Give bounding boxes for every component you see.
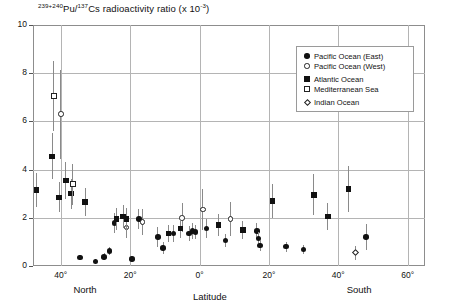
hemisphere-label-north: North xyxy=(65,284,105,295)
x-tick-label: 0° xyxy=(185,270,215,280)
marker-filled-square xyxy=(56,195,62,201)
x-tick-label: 60° xyxy=(393,270,423,280)
y-tick-label: 4 xyxy=(7,164,27,174)
marker-open-square xyxy=(51,93,57,99)
marker-filled-square xyxy=(178,226,184,232)
legend-item-atlantic-ocean[interactable]: Atlantic Ocean xyxy=(302,74,409,84)
legend-item-pacific-ocean-east[interactable]: Pacific Ocean (East) xyxy=(302,51,409,61)
marker-filled-square xyxy=(34,187,40,193)
marker-filled-circle xyxy=(304,53,310,59)
marker-filled-square xyxy=(240,227,246,233)
y-tick-mark xyxy=(29,218,33,219)
y-tick-mark xyxy=(29,170,33,171)
title-pu: Pu/ xyxy=(63,3,78,14)
legend-marker-filled-circle-icon xyxy=(302,51,314,61)
marker-open-circle xyxy=(304,63,310,69)
y-gridline xyxy=(33,121,425,122)
x-tick-label: 20° xyxy=(115,270,145,280)
legend: Pacific Ocean (East)Pacific Ocean (West)… xyxy=(296,46,414,112)
x-gridline xyxy=(269,25,270,266)
marker-filled-circle xyxy=(107,248,113,254)
hemisphere-label-south: South xyxy=(339,284,379,295)
chart-container: 239+240Pu/137Cs radioactivity ratio (x 1… xyxy=(0,0,461,302)
marker-open-square xyxy=(70,181,76,187)
y-gridline xyxy=(33,170,425,171)
legend-marker-open-square-icon xyxy=(302,84,314,94)
marker-open-diamond xyxy=(303,98,310,105)
marker-filled-square xyxy=(114,216,120,222)
x-tick-label: 20° xyxy=(254,270,284,280)
y-tick-label: 0 xyxy=(7,260,27,270)
marker-filled-square xyxy=(124,216,130,222)
legend-item-mediterranean-sea[interactable]: Mediterranean Sea xyxy=(302,84,409,94)
x-axis-label: Latitude xyxy=(185,291,235,302)
x-gridline xyxy=(130,25,131,266)
title-main: Cs radioactivity ratio (x 10 xyxy=(88,3,200,14)
y-tick-mark xyxy=(29,25,33,26)
legend-marker-open-diamond-icon xyxy=(302,97,314,107)
title-sup-cs-mass: 137 xyxy=(78,2,89,9)
marker-filled-circle xyxy=(129,256,135,262)
y-tick-mark xyxy=(29,266,33,267)
y-tick-label: 2 xyxy=(7,212,27,222)
title-sup-pu-mass: 239+240 xyxy=(38,2,63,9)
marker-filled-square xyxy=(346,186,352,192)
legend-item-pacific-ocean-west[interactable]: Pacific Ocean (West) xyxy=(302,61,409,71)
marker-filled-square xyxy=(325,214,331,220)
marker-filled-square xyxy=(304,76,310,82)
chart-title: 239+240Pu/137Cs radioactivity ratio (x 1… xyxy=(38,2,209,14)
marker-filled-circle xyxy=(77,255,83,261)
marker-filled-square xyxy=(49,154,55,160)
marker-filled-circle xyxy=(160,245,166,251)
legend-label: Pacific Ocean (West) xyxy=(314,62,385,71)
y-tick-mark xyxy=(29,73,33,74)
marker-filled-square xyxy=(63,178,69,184)
y-tick-label: 6 xyxy=(7,115,27,125)
y-tick-label: 8 xyxy=(7,67,27,77)
marker-filled-circle xyxy=(101,254,107,260)
legend-marker-open-circle-icon xyxy=(302,61,314,71)
legend-marker-filled-square-icon xyxy=(302,74,314,84)
legend-label: Atlantic Ocean xyxy=(314,75,363,84)
marker-filled-square xyxy=(270,198,276,204)
marker-open-circle xyxy=(58,111,64,117)
legend-label: Indian Ocean xyxy=(314,98,359,107)
x-tick-label: 40° xyxy=(46,270,76,280)
marker-open-circle xyxy=(200,207,206,213)
marker-filled-circle xyxy=(193,229,199,235)
title-tail: ) xyxy=(206,3,209,14)
marker-filled-square xyxy=(82,199,88,205)
marker-filled-square xyxy=(311,192,317,198)
marker-open-square xyxy=(304,86,310,92)
marker-filled-circle xyxy=(363,234,369,240)
legend-item-indian-ocean[interactable]: Indian Ocean xyxy=(302,97,409,107)
x-tick-label: 40° xyxy=(323,270,353,280)
legend-label: Pacific Ocean (East) xyxy=(314,52,383,61)
y-tick-label: 10 xyxy=(7,19,27,29)
x-gridline xyxy=(200,25,201,266)
marker-filled-square xyxy=(166,231,172,237)
legend-label: Mediterranean Sea xyxy=(314,85,379,94)
y-tick-mark xyxy=(29,121,33,122)
marker-filled-circle xyxy=(155,234,161,240)
marker-open-circle xyxy=(140,219,146,225)
marker-filled-square xyxy=(216,222,222,228)
